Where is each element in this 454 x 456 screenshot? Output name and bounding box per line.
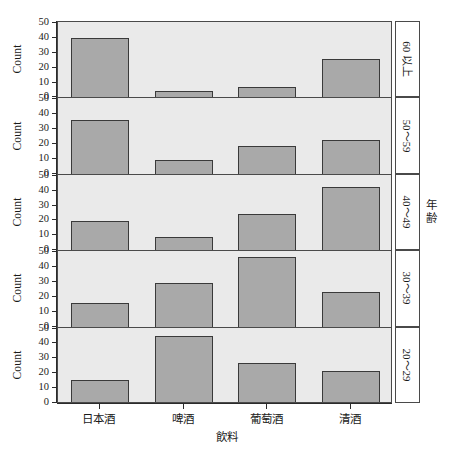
y-axis: 01020304050Count01020304050Count01020304… — [0, 21, 57, 403]
panel-stack — [57, 21, 392, 403]
facet-strip-label: 20〜29 — [400, 348, 416, 381]
facet-strip: 60 以上 — [395, 21, 420, 97]
x-axis-tick — [266, 403, 267, 409]
y-axis-title: Count — [11, 197, 23, 226]
x-axis-tick — [99, 403, 100, 409]
y-axis-title: Count — [11, 274, 23, 303]
y-axis-tick-label: 40 — [39, 108, 50, 118]
facet-strip-label: 50〜59 — [400, 119, 416, 152]
facet-panel — [57, 97, 392, 173]
faceted-bar-chart: 01020304050Count01020304050Count01020304… — [0, 0, 454, 456]
y-axis-tick-label: 20 — [39, 138, 50, 148]
y-axis-title: Count — [11, 45, 23, 74]
facet-panel — [57, 21, 392, 97]
y-axis-tick-label: 30 — [39, 276, 50, 286]
plot-area — [58, 328, 391, 402]
bar — [322, 59, 380, 97]
y-axis-title: Count — [11, 350, 23, 379]
facet-strip-label: 60 以上 — [400, 41, 416, 77]
bar — [238, 214, 296, 250]
facet-strip: 40〜49 — [395, 174, 420, 250]
y-axis-tick-label: 50 — [39, 323, 50, 333]
bar — [71, 221, 129, 250]
x-axis-tick-label: 葡萄酒 — [250, 410, 283, 426]
y-axis-tick-label: 10 — [39, 382, 50, 392]
y-axis-tick-label: 40 — [39, 261, 50, 271]
plot-area — [58, 22, 391, 97]
facet-axis-title-char: 年 — [424, 199, 438, 212]
y-axis-tick-label: 50 — [39, 246, 50, 256]
bar — [71, 120, 129, 174]
y-axis-tick-label: 10 — [39, 229, 50, 239]
bar — [71, 380, 129, 402]
bar — [155, 336, 213, 401]
y-axis-tick-label: 30 — [39, 200, 50, 210]
facet-strip-label: 30〜39 — [400, 272, 416, 305]
facet-strip: 20〜29 — [395, 327, 420, 403]
plot-area — [58, 98, 391, 173]
x-axis-line — [57, 403, 392, 404]
y-axis-tick-label: 40 — [39, 32, 50, 42]
y-axis-tick-label: 10 — [39, 77, 50, 87]
x-axis-tick-label: 清酒 — [339, 410, 361, 426]
bar — [155, 160, 213, 174]
facet-panel — [57, 327, 392, 403]
y-axis-tick-label: 50 — [39, 17, 50, 27]
bar — [322, 371, 380, 402]
y-axis-tick-label: 10 — [39, 306, 50, 316]
bar — [238, 257, 296, 327]
y-axis-tick-label: 20 — [39, 291, 50, 301]
plot-area — [58, 251, 391, 326]
bar — [155, 237, 213, 250]
y-axis-tick-label: 20 — [39, 367, 50, 377]
facet-panel — [57, 174, 392, 250]
y-axis-title: Count — [11, 121, 23, 150]
y-axis-tick-label: 50 — [39, 93, 50, 103]
facet-strip: 30〜39 — [395, 250, 420, 326]
facet-axis-title-char: 齢 — [424, 212, 438, 225]
y-axis-tick-label: 10 — [39, 153, 50, 163]
y-axis-tick-label: 30 — [39, 123, 50, 133]
facet-strip-label: 40〜49 — [400, 195, 416, 228]
bar — [322, 140, 380, 173]
bar — [71, 38, 129, 98]
x-axis-tick-label: 啤酒 — [172, 410, 194, 426]
facet-strip: 50〜59 — [395, 97, 420, 173]
facet-panel — [57, 250, 392, 326]
bar — [155, 283, 213, 326]
y-axis-tick-label: 0 — [44, 397, 49, 407]
bar — [322, 187, 380, 250]
y-axis-tick-label: 50 — [39, 170, 50, 180]
y-axis-tick-label: 20 — [39, 62, 50, 72]
y-axis-tick-label: 30 — [39, 352, 50, 362]
y-axis-tick-label: 30 — [39, 47, 50, 57]
bar — [238, 146, 296, 174]
x-axis-tick — [183, 403, 184, 409]
bar — [238, 87, 296, 97]
facet-axis-title: 年齢 — [424, 199, 438, 224]
y-axis-tick-label: 20 — [39, 214, 50, 224]
bar — [71, 303, 129, 327]
x-axis-tick — [350, 403, 351, 409]
y-axis-tick-label: 40 — [39, 185, 50, 195]
y-axis-tick-label: 40 — [39, 337, 50, 347]
plot-area — [58, 175, 391, 250]
x-axis-title: 飲料 — [0, 428, 454, 444]
x-axis-tick-label: 日本酒 — [82, 410, 115, 426]
bar — [238, 363, 296, 402]
bar — [322, 292, 380, 326]
